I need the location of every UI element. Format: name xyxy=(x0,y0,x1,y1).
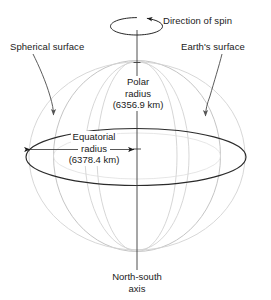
leader-spherical-surface xyxy=(33,54,54,115)
label-direction-of-spin: Direction of spin xyxy=(163,15,232,27)
equatorial-radius-value: (6378.4 km) xyxy=(67,154,122,166)
label-spherical-surface: Spherical surface xyxy=(10,41,84,53)
axis-line2: axis xyxy=(126,283,149,295)
label-north-south-axis: North-south axis xyxy=(92,271,182,294)
label-polar-radius: Polar radius (6356.9 km) xyxy=(93,76,183,111)
polar-radius-value: (6356.9 km) xyxy=(110,99,167,111)
label-earths-surface: Earth's surface xyxy=(181,41,245,53)
polar-radius-line1: Polar xyxy=(124,76,152,88)
equatorial-radius-line2: radius xyxy=(78,143,110,155)
polar-radius-line2: radius xyxy=(122,88,154,100)
spin-arrow-icon xyxy=(111,18,163,35)
axis-line1: North-south xyxy=(109,271,165,283)
label-equatorial-radius: Equatorial radius (6378.4 km) xyxy=(48,131,140,166)
equatorial-radius-line1: Equatorial xyxy=(71,131,118,143)
earth-spheroid-diagram: Direction of spin Spherical surface Eart… xyxy=(0,0,271,300)
